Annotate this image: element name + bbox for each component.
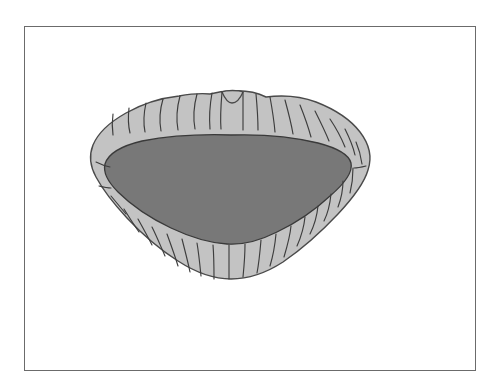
figure-root — [0, 0, 499, 392]
lips-illustration — [0, 0, 499, 392]
